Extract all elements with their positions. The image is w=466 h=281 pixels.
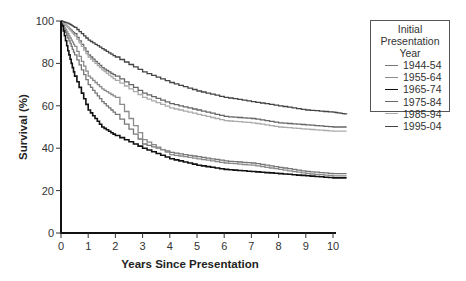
curve-1965-74 xyxy=(61,21,347,178)
x-tick-label: 4 xyxy=(167,240,173,252)
legend-label: 1944-54 xyxy=(403,59,442,71)
x-ticks: 012345678910 xyxy=(58,233,339,252)
legend-item: 1985-94 xyxy=(371,108,449,120)
curve-1955-64 xyxy=(61,21,347,176)
legend-label: 1985-94 xyxy=(403,108,442,120)
legend-swatch-icon xyxy=(385,65,398,66)
legend-item: 1995-04 xyxy=(371,120,449,132)
legend-label: 1965-74 xyxy=(403,83,442,95)
x-tick-label: 3 xyxy=(140,240,146,252)
legend: Initial Presentation Year 1944-541955-64… xyxy=(370,20,450,112)
curve-1985-94 xyxy=(61,21,347,131)
x-tick-label: 1 xyxy=(85,240,91,252)
legend-item: 1975-84 xyxy=(371,96,449,108)
legend-swatch-icon xyxy=(385,126,398,127)
legend-swatch-icon xyxy=(385,101,398,102)
legend-item: 1955-64 xyxy=(371,71,449,83)
x-tick-label: 10 xyxy=(327,240,339,252)
legend-title-line2: Presentation Year xyxy=(381,35,440,59)
x-tick-label: 6 xyxy=(221,240,227,252)
legend-title-line1: Initial xyxy=(398,23,423,35)
y-tick-label: 100 xyxy=(36,15,54,27)
y-tick-label: 60 xyxy=(42,100,54,112)
legend-items: 1944-541955-641965-741975-841985-941995-… xyxy=(371,59,449,132)
legend-item: 1944-54 xyxy=(371,59,449,71)
legend-label: 1955-64 xyxy=(403,71,442,83)
legend-swatch-icon xyxy=(385,77,398,78)
y-tick-label: 40 xyxy=(42,142,54,154)
legend-label: 1995-04 xyxy=(403,120,442,132)
x-tick-label: 0 xyxy=(58,240,64,252)
legend-swatch-icon xyxy=(385,89,398,90)
curve-1975-84 xyxy=(61,21,347,127)
survival-curves xyxy=(61,21,347,178)
y-tick-label: 20 xyxy=(42,185,54,197)
y-axis-title: Survival (%) xyxy=(17,94,29,160)
x-axis-title: Years Since Presentation xyxy=(121,258,258,270)
x-tick-label: 2 xyxy=(112,240,118,252)
y-tick-label: 0 xyxy=(48,227,54,239)
x-tick-label: 7 xyxy=(248,240,254,252)
legend-title: Initial Presentation Year xyxy=(371,23,449,59)
y-ticks: 020406080100 xyxy=(36,15,61,239)
curve-1944-54 xyxy=(61,21,347,174)
x-tick-label: 9 xyxy=(303,240,309,252)
x-tick-label: 8 xyxy=(276,240,282,252)
legend-label: 1975-84 xyxy=(403,96,442,108)
x-tick-label: 5 xyxy=(194,240,200,252)
y-tick-label: 80 xyxy=(42,57,54,69)
legend-swatch-icon xyxy=(385,113,398,114)
legend-item: 1965-74 xyxy=(371,83,449,95)
